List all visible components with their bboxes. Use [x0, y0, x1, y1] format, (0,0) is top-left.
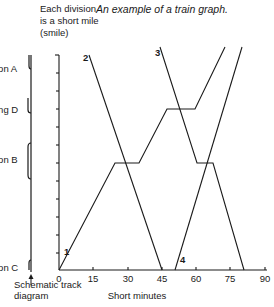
x-tick-30: 30 — [123, 273, 134, 284]
station-a-label: ion A — [0, 63, 274, 74]
x-tick-45: 45 — [157, 273, 168, 284]
train-3-label: 3 — [155, 47, 160, 58]
x-tick-90: 90 — [260, 273, 271, 284]
train-4-label: 4 — [180, 254, 185, 265]
x-tick-60: 60 — [191, 273, 202, 284]
station-c-label: ion C — [0, 262, 274, 273]
x-tick-15: 15 — [88, 273, 99, 284]
train-2-label: 2 — [83, 52, 88, 63]
siding-d-label: ing D — [0, 104, 274, 115]
x-axis-label: Short minutes — [108, 290, 167, 301]
x-tick-75: 75 — [225, 273, 236, 284]
station-b-label: ion B — [0, 154, 274, 165]
track-diagram-label: Schematic track diagram — [14, 279, 84, 301]
train-1-label: 1 — [64, 246, 69, 257]
